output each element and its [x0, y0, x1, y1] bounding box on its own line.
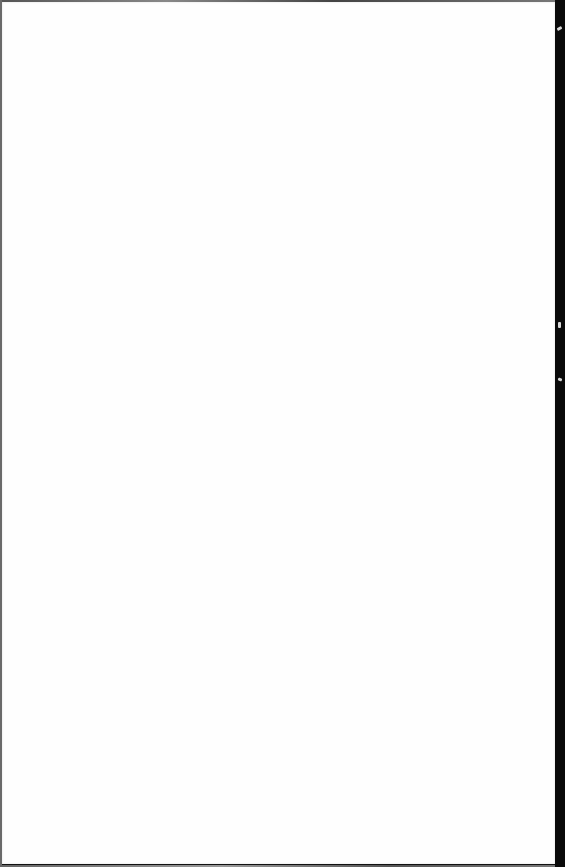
- background-speck: [558, 322, 561, 328]
- background-speck: [558, 377, 563, 381]
- dark-background-strip: [555, 0, 565, 867]
- background-speck: [557, 26, 563, 31]
- photo-scene: [0, 0, 565, 867]
- page-content: [2, 2, 555, 864]
- blank-paper-page: [2, 2, 555, 864]
